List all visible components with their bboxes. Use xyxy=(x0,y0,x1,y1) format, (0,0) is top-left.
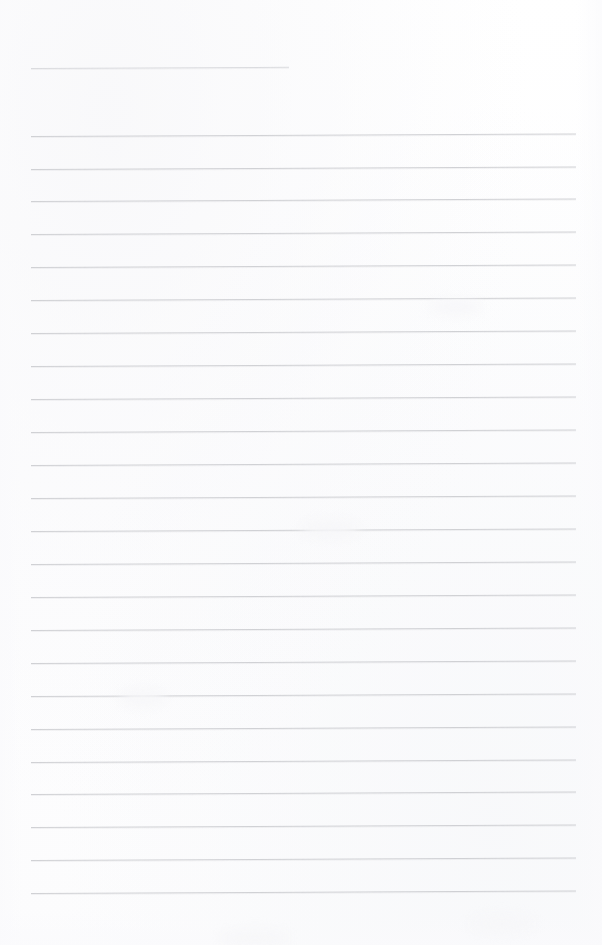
rule-line xyxy=(31,528,576,532)
rule-line xyxy=(31,594,576,598)
rule-line xyxy=(31,396,576,400)
rule-line xyxy=(31,462,576,466)
rule-line xyxy=(31,627,576,631)
notebook-page xyxy=(0,0,602,945)
rule-line xyxy=(31,166,576,170)
rule-line xyxy=(31,824,576,828)
rule-line xyxy=(31,759,576,763)
rule-line xyxy=(31,133,576,137)
rule-line xyxy=(31,890,576,894)
rule-line xyxy=(31,330,576,334)
rule-line xyxy=(31,363,576,367)
rule-line xyxy=(31,693,576,697)
rule-line xyxy=(31,429,576,433)
rule-line xyxy=(31,297,576,301)
rule-line xyxy=(31,857,576,861)
rule-line xyxy=(31,660,576,664)
rule-line xyxy=(31,231,576,235)
rule-line xyxy=(31,495,576,499)
rule-line-short xyxy=(31,67,289,69)
rule-line xyxy=(31,198,576,202)
rule-line xyxy=(31,264,576,268)
rule-line xyxy=(31,561,576,565)
rule-line xyxy=(31,791,576,795)
ruled-lines-container xyxy=(0,0,602,945)
rule-line xyxy=(31,726,576,730)
